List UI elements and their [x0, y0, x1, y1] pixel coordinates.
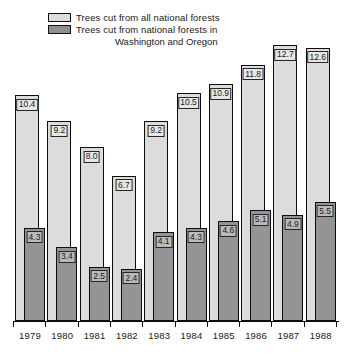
x-axis-tick-label: 1982 — [116, 330, 138, 341]
bar-wa-or: 2.5 — [89, 267, 110, 321]
x-axis-tick — [271, 321, 272, 327]
bar-value-label: 4.3 — [188, 231, 205, 243]
bar-value-label: 3.4 — [58, 251, 75, 263]
x-axis-tick-label: 1984 — [181, 330, 203, 341]
bar-group: 10.54.3 — [177, 28, 207, 321]
bar-group: 9.23.4 — [47, 28, 77, 321]
bar-wa-or: 4.9 — [282, 215, 303, 321]
bar-value-label: 4.6 — [220, 225, 237, 237]
bar-wa-or: 3.4 — [56, 247, 77, 321]
bar-group: 6.72.4 — [112, 28, 142, 321]
bar-group: 9.24.1 — [144, 28, 174, 321]
bar-group: 12.74.9 — [273, 28, 303, 321]
x-axis-tick — [78, 321, 79, 327]
x-axis-tick — [175, 321, 176, 327]
bar-value-label: 2.5 — [91, 270, 108, 282]
bar-value-label: 4.1 — [155, 236, 172, 248]
x-axis-tick-label: 1986 — [245, 330, 267, 341]
bar-group: 10.94.6 — [209, 28, 239, 321]
bar-group: 12.65.5 — [306, 28, 336, 321]
x-axis-tick-label: 1987 — [277, 330, 299, 341]
x-axis-tick-label: 1979 — [19, 330, 41, 341]
bar-value-label: 9.2 — [51, 125, 68, 137]
bar-wa-or: 4.3 — [186, 228, 207, 321]
bar-wa-or: 4.6 — [218, 221, 239, 321]
plot-area: 10.44.39.23.48.02.56.72.49.24.110.54.310… — [14, 28, 337, 321]
x-axis-tick-label: 1988 — [310, 330, 332, 341]
bar-value-label: 8.0 — [83, 151, 100, 163]
bar-wa-or: 4.1 — [153, 232, 174, 321]
bar-wa-or: 5.1 — [250, 210, 271, 321]
x-axis-line — [14, 321, 339, 322]
x-axis-tick — [304, 321, 305, 327]
x-axis-tick — [207, 321, 208, 327]
bar-chart: Trees cut from all national forests Tree… — [0, 0, 351, 360]
bar-value-label: 5.5 — [317, 205, 334, 217]
bar-value-label: 9.2 — [148, 125, 165, 137]
bar-value-label: 2.4 — [123, 272, 140, 284]
x-axis-labels: 1979198019811982198319841985198619871988 — [14, 330, 339, 346]
bar-group: 11.85.1 — [241, 28, 271, 321]
x-axis-tick — [239, 321, 240, 327]
legend-item-all-forests: Trees cut from all national forests — [48, 12, 220, 23]
x-axis-tick — [336, 321, 337, 327]
x-axis-tick — [142, 321, 143, 327]
bar-wa-or: 2.4 — [121, 269, 142, 321]
bar-value-label: 4.3 — [26, 231, 43, 243]
bar-value-label: 11.8 — [243, 68, 264, 80]
legend-swatch-light — [48, 13, 71, 22]
x-axis-tick — [110, 321, 111, 327]
bar-value-label: 12.6 — [307, 51, 329, 63]
bar-value-label: 10.4 — [16, 99, 38, 111]
bar-value-label: 12.7 — [275, 49, 297, 61]
bar-value-label: 6.7 — [115, 179, 132, 191]
x-axis-tick-label: 1983 — [148, 330, 170, 341]
bar-value-label: 10.9 — [210, 88, 232, 100]
x-axis-tick-label: 1980 — [51, 330, 73, 341]
bar-value-label: 10.5 — [178, 97, 200, 109]
legend-label-all-forests: Trees cut from all national forests — [76, 12, 220, 23]
bar-group: 10.44.3 — [15, 28, 45, 321]
bar-value-label: 5.1 — [252, 214, 269, 226]
x-axis-tick-label: 1985 — [213, 330, 235, 341]
x-axis-tick — [13, 321, 14, 327]
bar-wa-or: 5.5 — [315, 202, 336, 321]
x-axis-tick — [45, 321, 46, 327]
bar-wa-or: 4.3 — [24, 228, 45, 321]
x-axis-tick-label: 1981 — [84, 330, 106, 341]
bar-group: 8.02.5 — [80, 28, 110, 321]
bar-value-label: 4.9 — [284, 218, 301, 230]
